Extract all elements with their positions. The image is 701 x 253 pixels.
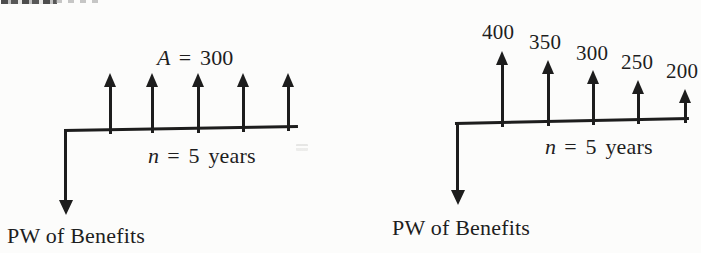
up-arrow-icon: [632, 80, 645, 124]
period-value: = 5 years: [167, 143, 256, 168]
up-arrow-icon: [282, 73, 295, 131]
annuity-value: = 300: [179, 45, 234, 70]
down-arrow-icon: [59, 130, 73, 215]
period-symbol: n: [545, 134, 556, 159]
cropped-text-fragment: [1, 0, 57, 4]
cash-flow-value: 350: [529, 31, 561, 53]
annuity-symbol: A: [157, 45, 171, 70]
figure-canvas: A= 300 n= 5 years PW of Benefits 400 350…: [0, 0, 701, 253]
timeline-baseline: [64, 124, 298, 131]
down-arrow-icon: [451, 122, 465, 205]
scan-smudge: [296, 144, 308, 151]
up-arrow-icon: [542, 60, 555, 126]
up-arrow-icon: [496, 51, 509, 127]
pw-benefits-label: PW of Benefits: [7, 224, 145, 247]
up-arrow-icon: [237, 73, 250, 132]
annuity-label: A= 300: [157, 46, 234, 69]
up-arrow-icon: [192, 73, 205, 133]
period-value: = 5 years: [564, 134, 653, 159]
cash-flow-value: 200: [666, 60, 698, 82]
up-arrow-icon: [587, 70, 600, 125]
cropped-text-fragment-light: [56, 0, 102, 3]
period-symbol: n: [148, 143, 159, 168]
timeline-baseline: [455, 117, 689, 125]
up-arrow-icon: [679, 89, 692, 123]
cash-flow-value: 250: [621, 51, 653, 73]
cash-flow-value: 400: [482, 21, 514, 43]
pw-benefits-label: PW of Benefits: [392, 216, 530, 239]
period-label: n= 5 years: [545, 135, 653, 158]
cash-flow-value: 300: [576, 42, 608, 64]
up-arrow-icon: [146, 73, 159, 133]
up-arrow-icon: [104, 73, 117, 134]
period-label: n= 5 years: [148, 144, 256, 167]
